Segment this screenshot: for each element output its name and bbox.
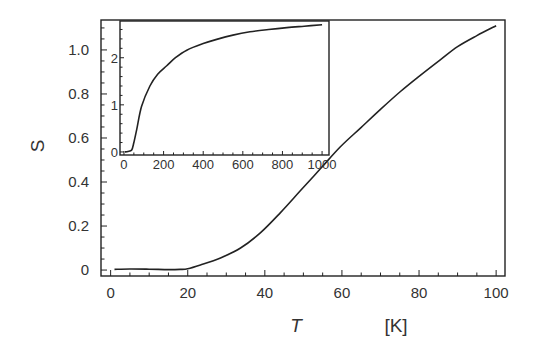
inset-x-tick-label: 200	[153, 157, 175, 172]
x-axis-unit: [K]	[384, 315, 407, 336]
inset-y-tick-label: 2	[111, 51, 118, 66]
main-y-tick-label: 0.8	[68, 85, 89, 102]
inset-y-tick-label: 1	[111, 98, 118, 113]
inset-background	[120, 21, 329, 155]
main-y-tick-label: 1.0	[68, 41, 89, 58]
main-y-tick-label: 0.6	[68, 129, 89, 146]
inset-plot: 02004006008001000012	[111, 21, 337, 172]
inset-x-tick-label: 400	[192, 157, 214, 172]
main-x-tick-label: 80	[411, 284, 428, 301]
main-y-tick-label: 0.2	[68, 217, 89, 234]
main-y-tick-label: 0	[81, 261, 89, 278]
y-axis-label: S	[27, 140, 48, 153]
inset-x-tick-label: 600	[232, 157, 254, 172]
main-x-tick-label: 60	[334, 284, 351, 301]
main-y-tick-label: 0.4	[68, 173, 89, 190]
main-x-tick-label: 0	[106, 284, 114, 301]
main-x-tick-label: 100	[484, 284, 509, 301]
main-x-tick-label: 20	[179, 284, 196, 301]
x-axis-label: T	[290, 315, 303, 336]
main-x-tick-label: 40	[256, 284, 273, 301]
inset-x-tick-label: 800	[272, 157, 294, 172]
inset-y-tick-label: 0	[111, 145, 118, 160]
chart-canvas: 02040608010000.20.40.60.81.0 S T [K] 020…	[0, 0, 535, 357]
inset-x-tick-label: 1000	[308, 157, 337, 172]
inset-x-tick-label: 0	[120, 157, 127, 172]
